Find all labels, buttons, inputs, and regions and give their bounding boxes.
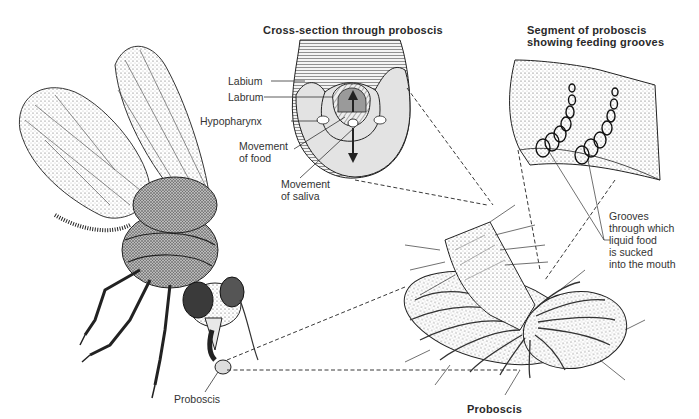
proboscis-detail-title: Proboscis xyxy=(467,403,522,416)
label-labium: Labium xyxy=(228,75,262,87)
fly-illustration xyxy=(19,46,258,398)
proboscis-detail-illustration xyxy=(394,205,645,395)
label-labrum: Labrum xyxy=(228,91,264,103)
label-grooves-line3: liquid food xyxy=(609,234,657,246)
figure-canvas: Cross-section through proboscis Labium L… xyxy=(0,0,699,419)
label-movement-of-food-line1: Movement xyxy=(239,140,288,152)
label-grooves-line1: Grooves xyxy=(609,210,649,222)
segment-title-line2: showing feeding grooves xyxy=(527,36,664,49)
label-hypopharynx: Hypopharynx xyxy=(200,115,262,127)
label-grooves-line5: into the mouth xyxy=(609,258,676,270)
label-grooves-line4: is sucked xyxy=(609,246,653,258)
label-movement-of-food-line2: of food xyxy=(239,152,271,164)
label-movement-of-saliva-line1: Movement xyxy=(281,178,330,190)
cross-section-illustration xyxy=(264,40,410,178)
label-movement-of-saliva-line2: of saliva xyxy=(281,190,320,202)
label-fly-proboscis: Proboscis xyxy=(174,393,220,405)
cross-section-title: Cross-section through proboscis xyxy=(263,24,443,37)
illustration xyxy=(0,0,699,419)
label-grooves-line2: through which xyxy=(609,222,674,234)
segment-connector-lines xyxy=(518,150,615,280)
